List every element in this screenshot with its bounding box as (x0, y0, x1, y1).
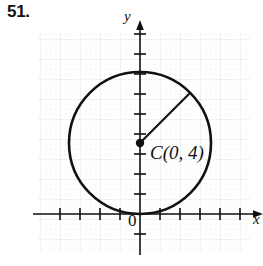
x-axis-label: x (253, 212, 260, 227)
origin-label: 0 (128, 212, 137, 229)
y-axis-label: y (124, 9, 131, 24)
y-axis-arrowhead (136, 20, 144, 30)
circle-center-label: C(0, 4) (150, 143, 204, 162)
center-point-marker (136, 139, 144, 147)
